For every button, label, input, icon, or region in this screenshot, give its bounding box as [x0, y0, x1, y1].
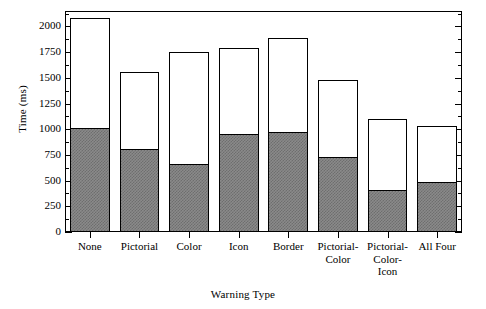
- y-tick-minor-right: [458, 65, 462, 66]
- x-tick-label: Icon: [214, 240, 264, 253]
- y-tick-major-right: [455, 104, 462, 105]
- y-tick-minor: [65, 116, 69, 117]
- y-tick-minor: [65, 65, 69, 66]
- y-tick-minor-right: [458, 116, 462, 117]
- y-tick-minor: [65, 39, 69, 40]
- y-tick-label: 1500: [1, 72, 61, 83]
- x-tick-label: Border: [264, 240, 314, 253]
- y-tick-major: [65, 232, 72, 233]
- bar-lower-segment: [369, 190, 407, 231]
- x-tick-label: Color: [164, 240, 214, 253]
- y-tick-minor: [65, 142, 69, 143]
- y-tick-label: 1000: [1, 123, 61, 134]
- x-tick-label: All Four: [412, 240, 462, 253]
- y-tick-minor: [65, 91, 69, 92]
- x-tick: [139, 232, 140, 238]
- bar-lower-segment: [418, 182, 456, 231]
- x-tick-label: None: [65, 240, 115, 253]
- y-tick-minor: [65, 193, 69, 194]
- bar-lower-segment: [269, 132, 307, 231]
- x-tick: [437, 232, 438, 238]
- bar-lower-segment: [121, 149, 159, 231]
- bar: [120, 72, 160, 232]
- y-tick-minor-right: [458, 193, 462, 194]
- x-tick: [189, 232, 190, 238]
- y-tick-major-right: [455, 78, 462, 79]
- x-tick-label: Pictorial- Color- Icon: [363, 240, 413, 278]
- y-tick-minor: [65, 219, 69, 220]
- y-tick-major-right: [455, 52, 462, 53]
- y-tick-major-right: [455, 232, 462, 233]
- chart-figure: Time (ms) 025050075010001250150017502000…: [0, 0, 486, 309]
- x-tick: [90, 232, 91, 238]
- x-tick: [288, 232, 289, 238]
- bar-lower-segment: [319, 157, 357, 231]
- y-tick-label: 250: [1, 200, 61, 211]
- y-tick-minor-right: [458, 142, 462, 143]
- y-tick-label: 1250: [1, 98, 61, 109]
- y-tick-minor: [65, 168, 69, 169]
- x-tick: [388, 232, 389, 238]
- y-tick-major-right: [455, 26, 462, 27]
- y-tick-label: 0: [1, 226, 61, 237]
- bar: [318, 80, 358, 232]
- y-tick-minor-right: [458, 39, 462, 40]
- bar: [169, 52, 209, 232]
- bar: [70, 18, 110, 232]
- y-tick-label: 1750: [1, 46, 61, 57]
- y-tick-minor-right: [458, 168, 462, 169]
- x-tick-label: Pictorial- Color: [313, 240, 363, 265]
- bar-lower-segment: [220, 134, 258, 231]
- bar: [268, 38, 308, 232]
- bar: [417, 126, 457, 232]
- y-tick-minor-right: [458, 14, 462, 15]
- bar: [219, 48, 259, 232]
- y-tick-label: 2000: [1, 20, 61, 31]
- x-tick: [239, 232, 240, 238]
- x-tick: [338, 232, 339, 238]
- x-tick-label: Pictorial: [115, 240, 165, 253]
- y-tick-minor: [65, 14, 69, 15]
- bar-lower-segment: [170, 164, 208, 231]
- y-tick-minor-right: [458, 91, 462, 92]
- y-tick-minor-right: [458, 219, 462, 220]
- x-axis-title: Warning Type: [0, 288, 486, 300]
- bar-lower-segment: [71, 128, 109, 231]
- y-tick-label: 500: [1, 175, 61, 186]
- y-tick-label: 750: [1, 149, 61, 160]
- bar: [368, 119, 408, 232]
